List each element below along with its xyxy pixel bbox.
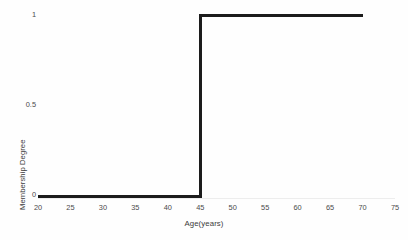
x-axis-title: Age(years) [0,219,408,228]
plot-area [38,15,395,196]
y-tick-label-05: 0.5 [10,101,36,109]
x-tick-label: 50 [218,203,248,213]
x-tick-label: 25 [55,203,85,213]
x-tick-label: 60 [283,203,313,213]
series-line-segment [200,14,362,17]
x-tick-label: 45 [185,203,215,213]
x-tick-label: 40 [153,203,183,213]
x-tick-label: 70 [348,203,378,213]
x-tick-label: 30 [88,203,118,213]
x-tick-label: 65 [315,203,345,213]
x-tick-label: 35 [120,203,150,213]
x-axis-tick-labels: 202530354045505560657075 [0,203,408,215]
series-line-segment [199,14,202,198]
series-line-segment [38,195,200,198]
x-axis-line [38,198,395,199]
chart-figure: Membership Degree 1 0.5 0 20253035404550… [0,0,408,240]
x-tick-label: 75 [380,203,408,213]
y-tick-label-1: 1 [10,11,36,19]
y-tick-label-0: 0 [10,191,36,199]
y-axis-title: Membership Degree [16,10,30,210]
x-tick-label: 20 [23,203,53,213]
x-tick-label: 55 [250,203,280,213]
